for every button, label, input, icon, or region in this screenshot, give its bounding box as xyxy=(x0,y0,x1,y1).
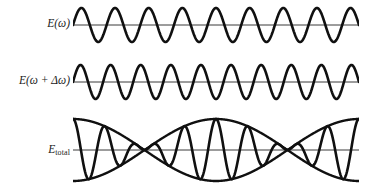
waveform-e-total xyxy=(73,119,359,179)
plot-e-omega-delta xyxy=(73,57,359,109)
wave-row-omega-delta: E(ω + Δω) xyxy=(0,57,367,109)
plot-e-total xyxy=(73,112,359,188)
label-e-total: Etotal xyxy=(0,144,70,157)
wave-row-total: Etotal xyxy=(0,112,367,188)
label-e-omega: E(ω) xyxy=(0,18,70,30)
plot-svg-e-omega xyxy=(73,0,359,52)
plot-e-omega xyxy=(73,0,359,52)
wave-row-omega: E(ω) xyxy=(0,0,367,52)
plot-svg-e-omega-delta xyxy=(73,57,359,109)
label-e-total-subscript: total xyxy=(55,148,70,157)
wave-beats-figure: E(ω) E(ω + Δω) Etotal xyxy=(0,0,367,188)
plot-svg-e-total xyxy=(73,112,359,188)
label-e-omega-delta: E(ω + Δω) xyxy=(0,75,70,87)
